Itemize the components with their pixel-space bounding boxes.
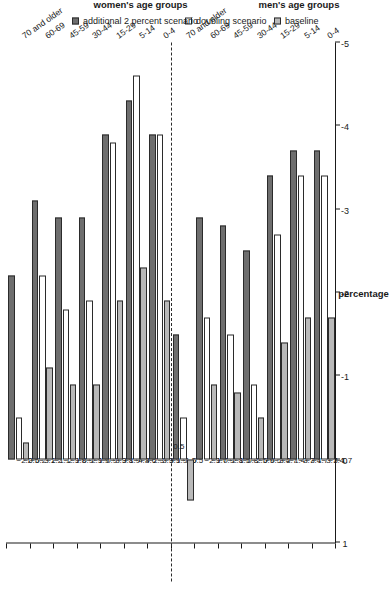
category-tick [241,543,242,548]
value-tick-label: 1 [333,538,357,548]
bar-women-5-14-baseline [140,267,147,459]
bar-women-0-4-doubling [157,134,164,459]
bar-women-70-and-older-additional [8,275,15,458]
value-tick-label: -3 [333,205,357,215]
category-tick [77,543,78,548]
bar-men-45-59-baseline [234,392,241,459]
category-tick [194,543,195,548]
bar-women-60-69-additional [32,200,39,458]
bar-men-60-69-additional [196,217,203,459]
bar-men-15-29-baseline [281,342,288,459]
bar-women-0-4-additional [149,134,156,459]
category-tick [6,543,7,548]
bar-value-label: −1.7 [336,455,352,464]
bar-women-30-44-doubling [86,300,93,458]
bar-women-60-69-baseline [46,367,53,459]
bar-women-70-and-older-doubling [16,417,23,459]
bar-men-30-44-baseline [258,417,265,459]
bar-women-0-4-baseline [164,300,171,458]
bar-men-0-4-additional [314,150,321,458]
bar-men-0-4-doubling [321,175,328,458]
category-tick [265,543,266,548]
legend-label: doubling scenario [196,15,267,25]
bar-men-15-29-doubling [274,234,281,459]
bar-men-45-59-doubling [227,334,234,459]
bar-women-15-29-additional [102,134,109,459]
legend-label: baseline [285,15,319,25]
category-tick [312,543,313,548]
bar-women-45-59-doubling [63,309,70,459]
legend-swatch-additional [72,17,79,24]
category-tick [335,543,336,548]
category-tick [53,543,54,548]
bar-men-0-4-baseline [328,317,335,459]
category-tick [147,543,148,548]
bar-women-15-29-doubling [110,142,117,459]
panel-separator [171,42,172,581]
bar-men-15-29-additional [267,175,274,458]
value-tick-label: -5 [333,38,357,48]
bar-men-60-69-doubling [204,317,211,459]
bar-men-5-14-additional [290,150,297,458]
category-label-women-0-4: 0-4 [161,25,177,40]
bar-men-30-44-doubling [251,384,258,459]
bar-men-45-59-additional [220,225,227,458]
bar-men-5-14-baseline [305,317,312,459]
category-tick [100,543,101,548]
bar-men-70-and-older-additional [173,334,180,459]
bar-women-70-and-older-baseline [23,442,30,459]
bar-women-30-44-baseline [93,384,100,459]
bar-men-70-and-older-doubling [180,417,187,459]
category-tick [124,543,125,548]
bar-women-15-29-baseline [117,300,124,458]
axis-title: percentage [358,42,369,543]
bar-women-5-14-additional [126,100,133,458]
legend-item-baseline[interactable]: baseline [274,15,319,25]
bar-women-45-59-additional [55,217,62,459]
bar-women-5-14-doubling [133,75,140,458]
bar-men-5-14-doubling [298,175,305,458]
category-tick [30,543,31,548]
value-tick-label: -1 [333,371,357,381]
legend-label: additional 2 percent scenario [83,15,198,25]
legend-swatch-baseline [274,17,281,24]
bar-men-30-44-additional [243,250,250,458]
axis-title-text: percentage [338,287,389,298]
bar-women-30-44-additional [79,217,86,459]
bar-value-label: 0.5 [173,441,184,450]
bar-women-60-69-doubling [39,275,46,458]
value-tick-label: -4 [333,121,357,131]
category-tick [218,543,219,548]
bar-men-60-69-baseline [211,384,218,459]
bar-women-45-59-baseline [70,384,77,459]
panel-title-women: women's age groups [94,0,188,10]
legend-item-additional[interactable]: additional 2 percent scenario [72,15,198,25]
panel-title-men: men's age groups [258,0,339,10]
category-tick [288,543,289,548]
bar-men-70-and-older-baseline [187,459,194,501]
